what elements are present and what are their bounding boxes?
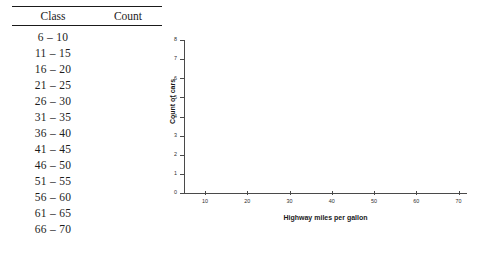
table-body: 6 – 10 11 – 15 16 – 20 21 – 25 26 – 30 3… [12,26,162,237]
y-tick-label: 0 [166,190,177,195]
cell-class: 31 – 35 [12,111,94,123]
y-tick-mark [180,155,185,156]
x-tick-label: 50 [364,199,384,204]
x-tick-mark [416,191,417,195]
frequency-distribution-table: Class Count 6 – 10 11 – 15 16 – 20 21 – … [12,6,162,237]
table-row: 11 – 15 [12,45,162,61]
y-tick-label: 8 [166,37,177,42]
y-tick-mark [180,174,185,175]
x-tick-label: 70 [449,199,469,204]
x-tick-label: 60 [406,199,426,204]
x-tick-mark [332,191,333,195]
cell-class: 16 – 20 [12,63,94,75]
table-row: 66 – 70 [12,221,162,237]
cell-class: 66 – 70 [12,223,94,235]
table-row: 21 – 25 [12,77,162,93]
cell-class: 56 – 60 [12,191,94,203]
x-tick-label: 40 [322,199,342,204]
y-tick-mark [180,193,185,194]
table-row: 26 – 30 [12,93,162,109]
x-axis-title: Highway miles per gallon [184,214,467,221]
table-row: 16 – 20 [12,61,162,77]
table-header-row: Class Count [12,7,162,25]
y-tick-mark [180,78,185,79]
y-tick-label: 2 [166,152,177,157]
cell-class: 11 – 15 [12,47,94,59]
y-tick-mark [180,59,185,60]
y-axis-title: Count of cars [169,67,176,137]
x-tick-mark [459,191,460,195]
cell-class: 21 – 25 [12,79,94,91]
y-tick-mark [180,136,185,137]
table-row: 51 – 55 [12,173,162,189]
cell-class: 61 – 65 [12,207,94,219]
cell-class: 46 – 50 [12,159,94,171]
cell-class: 6 – 10 [12,31,94,43]
cell-class: 26 – 30 [12,95,94,107]
column-header-count: Count [94,10,162,22]
cell-class: 41 – 45 [12,143,94,155]
x-tick-mark [290,191,291,195]
x-tick-mark [247,191,248,195]
table-row: 36 – 40 [12,125,162,141]
x-tick-mark [374,191,375,195]
y-tick-label: 7 [166,56,177,61]
cell-class: 36 – 40 [12,127,94,139]
y-tick-mark [180,40,185,41]
y-tick-mark [180,117,185,118]
column-header-class: Class [12,10,94,22]
y-tick-mark [180,97,185,98]
table-row: 46 – 50 [12,157,162,173]
plot-area[interactable] [185,40,467,193]
table-row: 56 – 60 [12,189,162,205]
x-tick-label: 20 [237,199,257,204]
cell-class: 51 – 55 [12,175,94,187]
table-row: 41 – 45 [12,141,162,157]
x-tick-label: 10 [195,199,215,204]
x-tick-label: 30 [280,199,300,204]
table-row: 31 – 35 [12,109,162,125]
y-axis-line [184,40,185,194]
y-tick-label: 1 [166,171,177,176]
table-row: 6 – 10 [12,29,162,45]
histogram-chart: 012345678 10203040506070 Count of cars H… [164,34,474,239]
x-tick-mark [205,191,206,195]
table-row: 61 – 65 [12,205,162,221]
x-axis-line [184,193,467,194]
